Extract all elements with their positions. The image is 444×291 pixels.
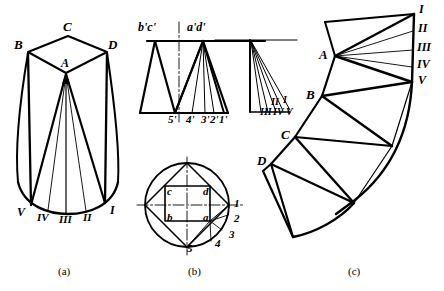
panel-c-chord-c-node — [295, 137, 392, 146]
figure-svg — [0, 0, 444, 291]
label-b-aux-III: III — [260, 107, 272, 117]
panel-a-ray-a-i — [66, 74, 105, 203]
label-c-II: II — [418, 22, 427, 34]
panel-a-outer-right — [107, 53, 118, 182]
label-c-D: D — [257, 154, 266, 167]
label-c-A: A — [319, 48, 328, 61]
caption-c: (c) — [348, 266, 360, 277]
label-b-2: 2 — [234, 213, 240, 224]
label-b-5: 5 — [187, 243, 193, 254]
panel-c-edge-b-c — [295, 96, 322, 137]
label-b-2-prime: 2' — [210, 114, 219, 125]
label-c-I: I — [419, 3, 424, 15]
label-c-IV: IV — [417, 58, 430, 70]
panel-b-radial-a-3 — [210, 221, 222, 230]
label-b-d: d — [203, 186, 209, 197]
panel-a-ray-a-v — [31, 74, 66, 205]
label-c-C: C — [281, 128, 290, 141]
label-b-c: c — [167, 186, 172, 197]
label-b-aux-IV: IV — [273, 107, 284, 117]
label-b-ad-prime: a'd' — [187, 21, 206, 33]
label-a-I: I — [110, 204, 115, 216]
panel-c-edge-tip-bottom — [263, 171, 293, 237]
label-a-B: B — [14, 38, 23, 51]
caption-a: (a) — [58, 266, 70, 277]
panel-c-edge-d-bottom — [271, 164, 293, 237]
label-a-IV: IV — [37, 212, 49, 223]
label-c-V: V — [418, 74, 426, 86]
panel-c-chord-b-v — [322, 82, 412, 96]
label-b-1: 1 — [234, 198, 240, 209]
panel-b-right-slant — [203, 41, 228, 113]
label-b-a: a — [203, 212, 209, 223]
label-b-aux-I: I — [283, 95, 287, 105]
panel-c-chord-a-v — [335, 56, 412, 82]
panel-a-apex-marker — [62, 72, 70, 84]
label-a-A: A — [61, 57, 69, 69]
panel-b-top-view — [137, 157, 243, 255]
panel-a-edge-bv — [28, 53, 31, 205]
label-b-3-prime: 3' — [201, 114, 210, 125]
panel-a-edge-di — [105, 53, 107, 203]
panel-b-ray-4p — [192, 41, 203, 113]
label-b-b: b — [167, 212, 173, 223]
label-b-3: 3 — [229, 229, 235, 240]
caption-b: (b) — [188, 266, 201, 277]
panel-b-left-triangle — [140, 41, 155, 113]
label-c-III: III — [417, 41, 431, 53]
label-b-bc-prime: b'c' — [138, 21, 156, 33]
panel-c-chord-c-lower — [295, 137, 354, 203]
panel-a-outer-left — [17, 53, 28, 182]
label-b-5-prime: 5' — [168, 114, 177, 125]
label-a-II: II — [83, 212, 92, 223]
label-b-aux-V: V — [286, 107, 293, 117]
panel-c-development — [263, 14, 414, 237]
panel-c-chord-d-lower — [271, 164, 354, 203]
label-a-III: III — [59, 214, 72, 225]
panel-a-ray-a-iv — [48, 74, 66, 210]
panel-a-ray-a-ii — [66, 74, 86, 211]
panel-c-chord-b-next — [322, 96, 392, 146]
technical-drawing-figure: C B D A V IV III II I b'c' a'd' 5' 4' 3'… — [0, 0, 444, 291]
label-b-1-prime: 1' — [219, 114, 228, 125]
panel-b-left-triangle-right — [155, 41, 175, 113]
label-b-4: 4 — [215, 238, 221, 249]
label-a-D: D — [108, 38, 117, 51]
label-c-B: B — [306, 88, 315, 101]
panel-c-ray-a-iv — [335, 56, 412, 67]
label-a-C: C — [63, 20, 72, 33]
label-a-V: V — [17, 206, 25, 218]
label-b-4-prime: 4' — [186, 114, 195, 125]
panel-c-edge-node-lower — [354, 146, 392, 203]
panel-c-edge-a-b — [322, 56, 335, 96]
